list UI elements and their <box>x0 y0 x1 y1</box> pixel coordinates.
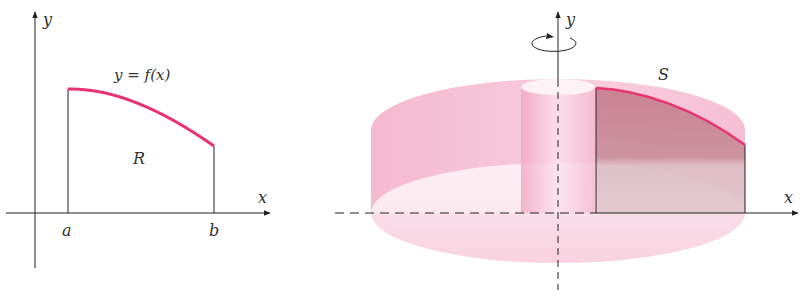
region-label: R <box>132 149 145 168</box>
solid-label: S <box>658 65 669 84</box>
right-x-label: x <box>784 188 793 207</box>
left-x-label: x <box>258 188 267 207</box>
curve-label: y = f(x) <box>113 66 170 84</box>
right-y-label: y <box>565 10 576 29</box>
tick-label-b: b <box>209 221 219 240</box>
figure-canvas: y x y = f(x) R a b y x S <box>0 0 804 298</box>
curve-f-of-x <box>68 89 214 146</box>
left-y-label: y <box>42 10 53 29</box>
rotation-arrow-icon <box>532 33 576 51</box>
tick-label-a: a <box>62 221 72 240</box>
left-graph: y x y = f(x) R a b <box>6 10 270 268</box>
